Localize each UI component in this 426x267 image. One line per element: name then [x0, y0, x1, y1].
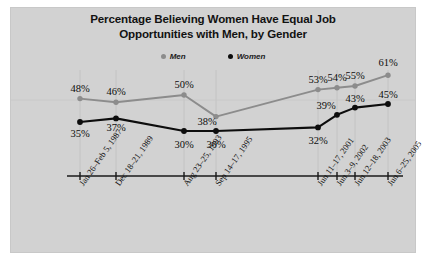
value-label-women: 45% — [378, 89, 397, 100]
chart-figure: Percentage Believing Women Have Equal Jo… — [0, 0, 426, 267]
value-label-men: 53% — [308, 74, 327, 85]
value-label-men: 61% — [378, 57, 397, 68]
value-label-women: 30% — [174, 139, 193, 150]
value-label-women: 32% — [308, 135, 327, 146]
x-tick-label: Dec 18–21, 1989 — [113, 134, 155, 188]
value-label-men: 46% — [106, 86, 125, 97]
value-label-women: 35% — [70, 128, 89, 139]
value-label-men: 50% — [174, 79, 193, 90]
value-label-women: 43% — [345, 93, 364, 104]
value-label-men: 38% — [197, 116, 216, 127]
x-tick-label: Jun 6–25, 2005 — [385, 139, 423, 188]
chart-label-overlay: 48%46%50%38%53%54%55%61%35%37%30%30%32%3… — [11, 8, 415, 252]
value-label-men: 48% — [70, 83, 89, 94]
value-label-men: 55% — [345, 70, 364, 81]
value-label-women: 39% — [316, 100, 335, 111]
value-label-men: 54% — [327, 72, 346, 83]
